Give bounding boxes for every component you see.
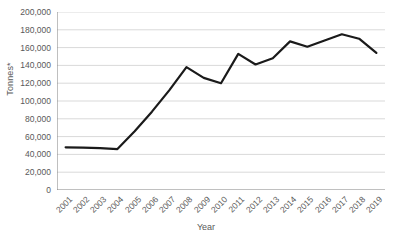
y-tick-label: 40,000 [25, 150, 51, 159]
y-tick-label: 0 [46, 186, 51, 195]
y-tick-label: 140,000 [20, 61, 51, 70]
data-series-line [66, 34, 377, 149]
line-chart: Tonnes* 020,00040,00060,00080,000100,000… [0, 0, 398, 242]
y-tick-label: 100,000 [20, 97, 51, 106]
plot-area [57, 12, 385, 190]
y-tick-label: 120,000 [20, 79, 51, 88]
y-tick-label: 160,000 [20, 43, 51, 52]
y-tick-label: 80,000 [25, 115, 51, 124]
x-axis-title: Year [0, 222, 398, 232]
gridlines [57, 12, 385, 190]
chart-canvas [57, 12, 385, 190]
y-tick-label: 200,000 [20, 8, 51, 17]
y-tick-label: 20,000 [25, 168, 51, 177]
y-tick-label: 180,000 [20, 26, 51, 35]
y-tick-label: 60,000 [25, 132, 51, 141]
x-axis-title-label: Year [197, 222, 215, 232]
y-axis-tick-labels: 020,00040,00060,00080,000100,000120,0001… [0, 0, 53, 242]
